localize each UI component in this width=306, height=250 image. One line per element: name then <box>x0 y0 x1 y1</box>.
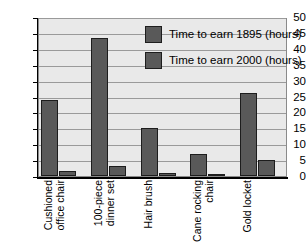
x-tick-label: 100-piecedinner set <box>93 180 116 226</box>
y-tick-mark <box>33 161 37 162</box>
legend-swatch-icon-0 <box>145 26 162 43</box>
x-tick-label-line: Hair brush <box>143 180 155 228</box>
plot-area: Time to earn 1895 (hours) Time to earn 2… <box>38 18 287 177</box>
y-tick-mark <box>33 113 37 114</box>
x-tick-label: Cushionedoffice chair <box>43 180 66 231</box>
legend-swatch-icon-1 <box>145 52 162 69</box>
x-tick-label-line: 100-piece <box>93 180 105 226</box>
bar <box>159 173 176 176</box>
y-tick-mark <box>33 129 37 130</box>
y-tick-label: 5 <box>272 155 306 167</box>
x-tick-label: Hair brush <box>143 180 155 228</box>
y-tick-mark <box>33 98 37 99</box>
y-tick-label: 10 <box>272 139 306 151</box>
bar <box>91 38 108 176</box>
bar <box>109 166 126 176</box>
bar <box>208 174 225 176</box>
y-tick-label: 45 <box>272 28 306 40</box>
y-tick-label: 35 <box>272 60 306 72</box>
y-tick-mark <box>33 177 37 178</box>
x-tick-label: Cane rockingchair <box>192 180 215 242</box>
bar <box>41 100 58 176</box>
bar <box>59 171 76 176</box>
bar <box>190 154 207 176</box>
y-tick-label: 40 <box>272 44 306 56</box>
bar <box>141 128 158 176</box>
x-tick-label-line: Cushioned <box>43 180 55 231</box>
y-tick-mark <box>33 34 37 35</box>
x-tick-label-line: dinner set <box>104 180 116 226</box>
x-tick-label-line: office chair <box>54 180 66 231</box>
y-tick-label: 20 <box>272 107 306 119</box>
x-tick-label-line: Gold locket <box>242 180 254 233</box>
bar-chart: Time to earn 1895 (hours) Time to earn 2… <box>0 0 306 250</box>
y-tick-label: 30 <box>272 76 306 88</box>
x-tick-label-line: chair <box>204 180 216 242</box>
y-tick-mark <box>33 82 37 83</box>
y-tick-label: 15 <box>272 123 306 135</box>
y-tick-label: 25 <box>272 92 306 104</box>
bar <box>240 93 257 176</box>
y-tick-mark <box>33 145 37 146</box>
y-tick-mark <box>33 18 37 19</box>
x-axis-tick-labels: Cushionedoffice chair100-piecedinner set… <box>38 180 287 250</box>
y-tick-mark <box>33 50 37 51</box>
x-tick-label: Gold locket <box>242 180 254 233</box>
y-tick-label: 50 <box>272 12 306 24</box>
y-tick-mark <box>33 66 37 67</box>
